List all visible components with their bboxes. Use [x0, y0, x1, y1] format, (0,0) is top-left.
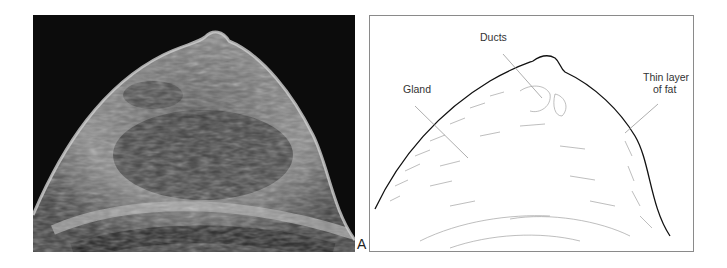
label-ducts: Ducts: [480, 31, 507, 43]
ultrasound-image: [33, 15, 355, 252]
label-thin-layer-of-fat-line2: of fat: [653, 83, 676, 95]
panel-letter: A: [357, 236, 366, 252]
line-drawing-panel: Gland Ducts Thin layer of fat: [369, 15, 694, 252]
label-gland: Gland: [403, 83, 431, 95]
ultrasound-scan-graphic: [33, 15, 355, 252]
breast-outline-drawing: [370, 16, 695, 253]
label-thin-layer-of-fat-line1: Thin layer: [643, 71, 689, 83]
